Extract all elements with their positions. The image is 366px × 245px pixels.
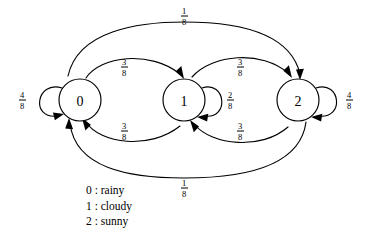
state-label-2: 2 (295, 94, 302, 109)
edge-2-to-0 (65, 118, 306, 178)
edge-0-to-1 (86, 59, 184, 79)
legend-row-cloudy: 1 : cloudy (86, 199, 132, 215)
fraction-numerator: 1 (176, 7, 192, 16)
fraction-denominator: 8 (232, 132, 248, 141)
fraction-numerator: 1 (176, 179, 192, 188)
legend-row-sunny: 2 : sunny (86, 214, 132, 230)
transition-label-2-0: 1 8 (176, 179, 192, 198)
arrowhead-2-to-1 (190, 120, 199, 132)
transition-label-2-1: 3 8 (232, 122, 248, 141)
edge-0-to-2 (68, 22, 304, 80)
fraction-denominator: 8 (116, 132, 132, 141)
transition-label-1-1: 2 8 (222, 91, 238, 110)
fraction-numerator: 3 (116, 122, 132, 131)
fraction-denominator: 8 (176, 189, 192, 198)
fraction-numerator: 4 (341, 91, 357, 100)
fraction-denominator: 8 (341, 101, 357, 110)
state-transition-diagram: 0 1 2 4 8 3 8 1 8 3 8 2 8 3 (0, 0, 366, 245)
fraction-numerator: 3 (116, 58, 132, 67)
state-node-1[interactable]: 1 (163, 79, 205, 121)
fraction-denominator: 8 (176, 17, 192, 26)
fraction-numerator: 4 (14, 91, 30, 100)
fraction-denominator: 8 (14, 101, 30, 110)
transition-label-1-0: 3 8 (116, 122, 132, 141)
transition-label-0-1: 3 8 (116, 58, 132, 77)
state-node-0[interactable]: 0 (59, 79, 101, 121)
fraction-numerator: 3 (232, 58, 248, 67)
arrowhead-1-to-2 (283, 65, 292, 78)
transition-label-0-2: 1 8 (176, 7, 192, 26)
arrowhead-0-self (53, 113, 64, 121)
transition-label-0-0: 4 8 (14, 91, 30, 110)
state-label-0: 0 (77, 94, 84, 109)
legend-row-rainy: 0 : rainy (86, 183, 132, 199)
arrowhead-0-to-1 (176, 66, 184, 79)
fraction-numerator: 2 (222, 91, 238, 100)
state-label-1: 1 (181, 94, 188, 109)
fraction-denominator: 8 (116, 68, 132, 77)
state-legend: 0 : rainy 1 : cloudy 2 : sunny (86, 183, 132, 230)
transition-label-2-2: 4 8 (341, 91, 357, 110)
transition-label-1-2: 3 8 (232, 58, 248, 77)
fraction-numerator: 3 (232, 122, 248, 131)
state-node-2[interactable]: 2 (277, 79, 319, 121)
fraction-denominator: 8 (222, 101, 238, 110)
diagram-canvas: 0 1 2 (0, 0, 366, 245)
arrowhead-0-to-2 (296, 69, 304, 80)
fraction-denominator: 8 (232, 68, 248, 77)
